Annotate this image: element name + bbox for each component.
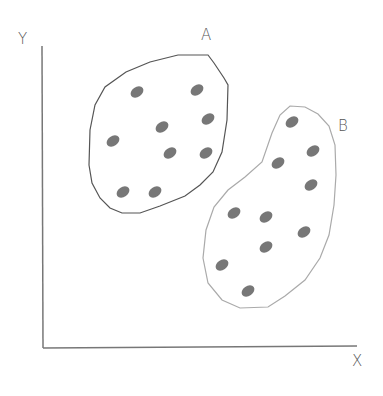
cluster-b-point xyxy=(257,239,274,255)
cluster-b-point xyxy=(283,114,300,130)
cluster-a-label: A xyxy=(201,26,211,44)
cluster-a-point xyxy=(199,111,216,127)
cluster-b-point xyxy=(257,209,274,225)
cluster-a-point xyxy=(197,145,214,161)
cluster-b-outline xyxy=(203,106,336,308)
x-axis-label: X xyxy=(352,352,362,370)
cluster-b-label: B xyxy=(338,117,348,135)
y-axis-label: Y xyxy=(18,30,27,48)
cluster-b-point xyxy=(213,257,230,273)
cluster-b-point xyxy=(239,283,256,299)
y-axis xyxy=(42,46,43,348)
cluster-b-point xyxy=(225,205,242,221)
cluster-b-point xyxy=(304,143,321,159)
cluster-a-point xyxy=(114,184,131,200)
cluster-a-point xyxy=(146,184,163,200)
cluster-b-point xyxy=(302,177,319,193)
cluster-b-point xyxy=(295,224,312,240)
cluster-a-point xyxy=(153,119,170,135)
cluster-a-point xyxy=(128,84,145,100)
cluster-a-point xyxy=(161,145,178,161)
data-points xyxy=(104,82,321,299)
x-axis xyxy=(43,346,357,348)
cluster-diagram-canvas xyxy=(0,0,383,396)
cluster-a-point xyxy=(188,82,205,98)
cluster-b-point xyxy=(269,155,286,171)
cluster-a-point xyxy=(104,133,121,149)
